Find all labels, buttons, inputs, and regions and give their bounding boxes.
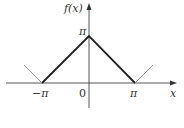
graph-canvas: [0, 0, 184, 128]
left-extension-line: [24, 65, 42, 83]
x-axis-arrow-icon: [170, 81, 177, 86]
x-tick-neg-pi-label: −π: [32, 88, 48, 99]
x-axis-label: x: [170, 88, 176, 99]
main-triangle-curve: [42, 36, 135, 83]
x-tick-pi-label: π: [130, 88, 137, 99]
y-axis-label: f(x): [64, 3, 83, 14]
origin-label: 0: [79, 88, 86, 99]
y-tick-pi-label: π: [79, 26, 86, 37]
y-axis-arrow-icon: [87, 3, 92, 10]
function-graph: f(x) π −π 0 π x: [0, 0, 184, 128]
right-extension-line: [135, 65, 153, 83]
